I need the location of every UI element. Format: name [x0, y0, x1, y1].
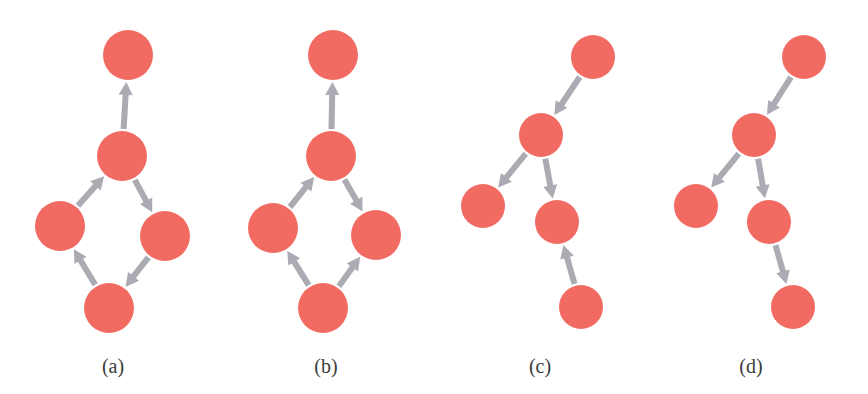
arrowhead-icon [560, 245, 574, 259]
edge-arrow-bottom-to-left [287, 251, 308, 285]
edge-arrow-mid-to-right [756, 159, 770, 199]
edge-shaft [561, 77, 580, 105]
graph-node-right [140, 211, 190, 261]
panel-d-edges [711, 77, 791, 284]
graph-node-right [535, 200, 579, 244]
edge-arrow-mid-to-right [135, 180, 152, 212]
arrowhead-icon [543, 184, 557, 198]
edge-shaft [124, 94, 126, 129]
edge-shaft [567, 257, 575, 284]
panel-d-label: (d) [739, 355, 762, 378]
panel-b-graph: (b) [248, 30, 401, 378]
edge-shaft [545, 159, 550, 187]
edge-arrow-bottom-to-right [560, 245, 574, 284]
graph-node-bottom [298, 283, 348, 333]
edge-arrow-top-to-mid [767, 77, 791, 115]
graph-node-top [571, 35, 615, 79]
edge-shaft [80, 260, 95, 285]
edge-arrow-mid-to-right [344, 180, 362, 212]
panel-b-edges [287, 82, 362, 286]
edge-shaft [758, 159, 763, 187]
edge-arrow-mid-to-right [543, 159, 557, 199]
panel-a-nodes [35, 30, 190, 333]
graph-node-mid [97, 131, 147, 181]
edge-arrow-bottom-to-left [74, 249, 95, 285]
edge-shaft [719, 154, 739, 179]
graph-node-mid [306, 131, 356, 181]
graph-node-bottom [771, 285, 815, 329]
edge-arrow-mid-to-left [711, 154, 739, 188]
panel-a-label: (a) [102, 355, 124, 378]
graph-node-bottom [84, 283, 134, 333]
graph-node-top [103, 30, 153, 80]
edge-shaft [135, 180, 147, 202]
panel-a-graph: (a) [35, 30, 190, 378]
panel-b-label: (b) [314, 355, 337, 378]
edge-shaft [344, 180, 356, 202]
panel-c-edges [498, 77, 580, 284]
panel-c-label: (c) [529, 355, 551, 378]
graph-node-left [461, 184, 505, 228]
graph-node-mid [519, 113, 563, 157]
graph-node-left [674, 184, 718, 228]
edge-arrow-right-to-bottom [126, 257, 149, 286]
edge-shaft [133, 257, 149, 277]
edge-arrow-mid-to-top [325, 82, 339, 129]
panel-b-nodes [248, 30, 401, 333]
graph-node-top [308, 30, 358, 80]
edge-shaft [773, 77, 791, 105]
figure-canvas: (a) (b) (c) (d) [0, 0, 868, 394]
edge-shaft [506, 154, 526, 179]
edge-arrow-mid-to-top [119, 82, 133, 129]
edge-shaft [339, 267, 353, 287]
edge-shaft [294, 261, 309, 285]
arrowhead-icon [776, 270, 790, 284]
edge-arrow-right-to-bottom [776, 245, 790, 284]
graph-node-right [747, 200, 791, 244]
panel-c-graph: (c) [461, 35, 615, 378]
edge-shaft [78, 185, 96, 206]
graph-node-right [351, 210, 401, 260]
edge-shaft [776, 245, 784, 272]
edge-arrow-top-to-mid [554, 77, 579, 115]
edge-arrow-bottom-to-right [339, 257, 360, 286]
graph-node-left [248, 203, 298, 253]
edge-shaft [332, 94, 333, 129]
panel-d-nodes [674, 35, 826, 329]
graph-node-mid [732, 113, 776, 157]
arrowhead-icon [325, 82, 339, 95]
panel-c-nodes [461, 35, 615, 329]
panel-a-edges [74, 82, 152, 287]
graph-node-left [35, 201, 85, 251]
graph-node-bottom [559, 285, 603, 329]
graph-node-top [782, 35, 826, 79]
edge-arrow-left-to-mid [290, 177, 314, 207]
arrowhead-icon [119, 82, 133, 95]
panel-d-graph: (d) [674, 35, 826, 378]
edge-arrow-left-to-mid [78, 176, 104, 206]
edge-arrow-mid-to-left [498, 154, 526, 188]
arrowhead-icon [756, 184, 770, 198]
edge-shaft [290, 186, 307, 207]
